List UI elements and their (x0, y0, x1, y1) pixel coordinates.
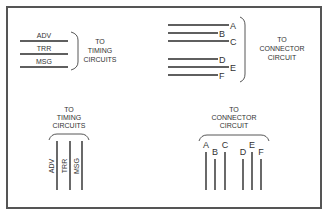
wiring-diagram: ADV TRR MSG TO TIMING CIRCUITS A B C D E… (0, 0, 328, 215)
panel-connector-vertical: TO CONNECTOR CIRCUIT A B C D E F (199, 106, 269, 190)
destination-line-1: TO (277, 36, 287, 43)
panel-timing-vertical: TO TIMING CIRCUITS ADV TRR MSG (48, 106, 89, 190)
signal-label-a: A (203, 140, 209, 150)
destination-line-1: TO (95, 38, 105, 45)
signal-label-trr: TRR (37, 45, 51, 52)
signal-label-e: E (249, 140, 255, 150)
brace (71, 32, 78, 70)
destination-line-2: TIMING (57, 114, 82, 121)
signal-label-e: E (230, 63, 236, 73)
brace (240, 17, 245, 82)
panel-connector-horizontal: A B C D E F TO CONNECTOR CIRCUIT (168, 17, 304, 82)
signal-label-b: B (219, 29, 225, 39)
brace (199, 135, 269, 141)
signal-label-trr: TRR (61, 159, 68, 173)
destination-line-2: CONNECTOR (212, 114, 257, 121)
signal-label-a: A (230, 21, 236, 31)
signal-label-msg: MSG (36, 58, 52, 65)
destination-line-2: TIMING (88, 47, 113, 54)
signal-label-adv: ADV (48, 158, 55, 173)
signal-label-d: D (219, 55, 226, 65)
signal-label-c: C (222, 140, 229, 150)
destination-line-3: CIRCUIT (268, 54, 297, 61)
destination-line-3: CIRCUITS (83, 56, 116, 63)
signal-label-f: F (258, 147, 264, 157)
signal-label-d: D (240, 147, 247, 157)
destination-line-1: TO (229, 106, 239, 113)
signal-label-c: C (230, 37, 237, 47)
panel-timing-horizontal: ADV TRR MSG TO TIMING CIRCUITS (20, 32, 117, 70)
brace (49, 134, 89, 140)
signal-label-f: F (219, 71, 225, 81)
diagram-frame (7, 7, 321, 208)
signal-label-msg: MSG (73, 158, 80, 174)
signal-label-adv: ADV (37, 32, 52, 39)
destination-line-3: CIRCUITS (52, 122, 85, 129)
signal-label-b: B (212, 147, 218, 157)
destination-line-3: CIRCUIT (220, 122, 249, 129)
destination-line-2: CONNECTOR (260, 45, 305, 52)
destination-line-1: TO (64, 106, 74, 113)
